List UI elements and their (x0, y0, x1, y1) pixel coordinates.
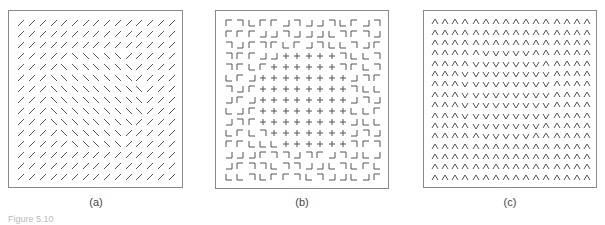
texture-element (123, 61, 134, 72)
forward-slash-segment-icon (49, 150, 59, 160)
texture-element (145, 83, 156, 94)
texture-element (234, 106, 245, 117)
cross-icon (338, 84, 348, 94)
caret-up-icon (440, 131, 450, 141)
texture-element (91, 150, 102, 161)
caret-up-icon (460, 152, 470, 162)
texture-element (491, 162, 501, 172)
caret-up-icon (552, 79, 562, 89)
texture-element (145, 172, 156, 183)
caret-up-icon (582, 100, 592, 110)
caret-up-icon (552, 38, 562, 48)
texture-element (156, 17, 167, 28)
texture-element (123, 94, 134, 105)
corner-top-right-icon (292, 172, 302, 182)
caret-up-icon (531, 28, 541, 38)
caret-up-icon (440, 59, 450, 69)
forward-slash-segment-icon (156, 73, 166, 83)
texture-element (314, 39, 325, 50)
texture-element (145, 106, 156, 117)
corner-top-right-icon (269, 150, 279, 160)
texture-element (80, 117, 91, 128)
texture-element (223, 94, 234, 105)
texture-element (471, 162, 481, 172)
caret-up-icon (552, 152, 562, 162)
corner-top-right-icon (372, 51, 382, 61)
texture-element (59, 61, 70, 72)
texture-element (303, 39, 314, 50)
texture-element (80, 17, 91, 28)
texture-element (280, 17, 291, 28)
texture-element (440, 152, 450, 162)
texture-element (113, 94, 124, 105)
corner-bottom-right-icon (315, 18, 325, 28)
texture-element (314, 50, 325, 61)
corner-top-right-icon (338, 51, 348, 61)
texture-element (349, 106, 360, 117)
texture-element (450, 38, 460, 48)
forward-slash-segment-icon (59, 29, 69, 39)
texture-element (37, 17, 48, 28)
caret-up-icon (491, 152, 501, 162)
texture-element (491, 17, 501, 27)
caret-up-icon (491, 17, 501, 27)
caret-up-icon (531, 152, 541, 162)
texture-element (582, 17, 592, 27)
texture-element (37, 106, 48, 117)
texture-element (562, 17, 572, 27)
texture-element (582, 38, 592, 48)
caret-up-icon (430, 131, 440, 141)
caret-up-icon (460, 59, 470, 69)
texture-element (292, 117, 303, 128)
caret-up-icon (450, 90, 460, 100)
caret-up-icon (450, 48, 460, 58)
texture-element (471, 69, 481, 79)
back-slash-segment-icon (113, 62, 123, 72)
corner-bottom-right-icon (304, 29, 314, 39)
texture-element (541, 162, 551, 172)
corner-top-left-icon (235, 51, 245, 61)
caret-up-icon (531, 48, 541, 58)
forward-slash-segment-icon (27, 18, 37, 28)
texture-element (234, 17, 245, 28)
caret-up-icon (471, 38, 481, 48)
corner-bottom-right-icon (361, 172, 371, 182)
panel-label-a: (a) (66, 196, 126, 208)
texture-element (501, 162, 511, 172)
corner-bottom-left-icon (304, 172, 314, 182)
forward-slash-segment-icon (156, 84, 166, 94)
texture-element (70, 17, 81, 28)
texture-element (541, 142, 551, 152)
texture-element (280, 117, 291, 128)
texture-element (501, 152, 511, 162)
forward-slash-segment-icon (145, 161, 155, 171)
texture-element (360, 50, 371, 61)
texture-element (511, 100, 521, 110)
back-slash-segment-icon (102, 62, 112, 72)
caret-up-icon (572, 38, 582, 48)
forward-slash-segment-icon (38, 95, 48, 105)
texture-element (481, 48, 491, 58)
texture-element (27, 61, 38, 72)
caret-up-icon (572, 121, 582, 131)
texture-element (471, 131, 481, 141)
texture-element (156, 106, 167, 117)
corner-bottom-right-icon (349, 117, 359, 127)
cross-icon (304, 84, 314, 94)
texture-element (257, 17, 268, 28)
texture-element (27, 161, 38, 172)
back-slash-segment-icon (102, 84, 112, 94)
back-slash-segment-icon (81, 117, 91, 127)
corner-bottom-left-icon (361, 84, 371, 94)
forward-slash-segment-icon (124, 29, 134, 39)
caret-up-icon (552, 162, 562, 172)
forward-slash-segment-icon (113, 172, 123, 182)
forward-slash-segment-icon (59, 18, 69, 28)
texture-element (440, 131, 450, 141)
vee-down-icon (481, 79, 491, 89)
texture-element (491, 131, 501, 141)
vee-down-icon (521, 90, 531, 100)
caret-up-icon (471, 152, 481, 162)
caret-up-icon (430, 111, 440, 121)
corner-top-right-icon (258, 40, 268, 50)
